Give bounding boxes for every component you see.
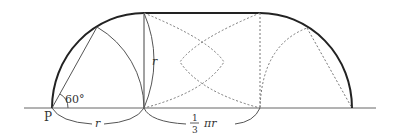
label-pi-r: πr [203, 117, 217, 130]
label-frac-den: 3 [192, 125, 198, 135]
label-r-vertical: r [152, 55, 158, 68]
label-frac-num: 1 [192, 113, 198, 123]
label-60deg: 60° [65, 93, 85, 106]
locus-diagram: P 60° r r 1 3 πr [0, 0, 395, 135]
semicircle-arc-left [97, 27, 144, 108]
dotted-construction [144, 13, 352, 108]
label-r-horizontal: r [95, 117, 101, 130]
label-P: P [44, 110, 52, 124]
dimension-third-pi-r [144, 108, 260, 124]
